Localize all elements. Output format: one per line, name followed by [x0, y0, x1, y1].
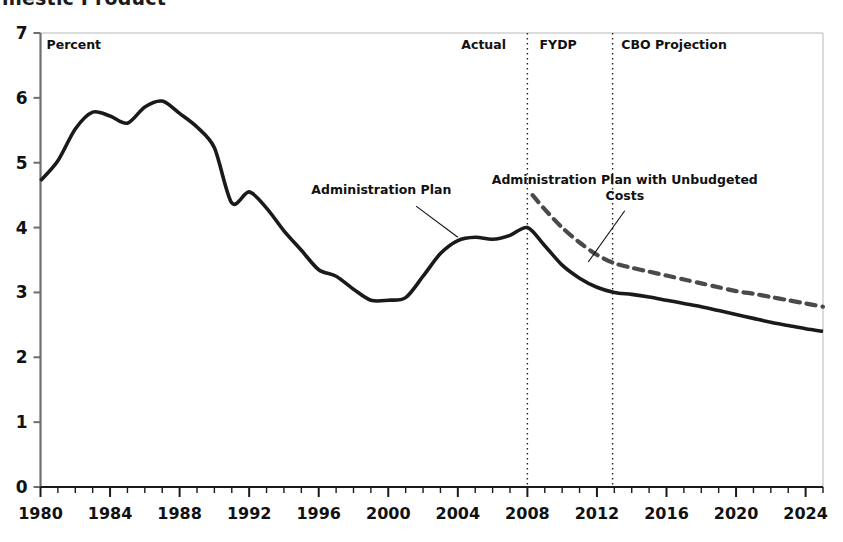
- annotation-leader-administration-plan: [416, 206, 458, 237]
- data-series: [41, 101, 824, 331]
- x-tick-label: 2000: [366, 504, 411, 523]
- series-line-dashed: [533, 195, 823, 307]
- y-tick-label: 4: [16, 218, 28, 238]
- y-tick-label: 6: [16, 88, 28, 108]
- chart-figure: mestic Product 01234567 1980198419881992…: [0, 0, 843, 542]
- y-axis-unit-label: Percent: [47, 37, 102, 52]
- x-tick-label: 1980: [18, 504, 63, 523]
- x-tick-label: 2008: [505, 504, 550, 523]
- region-label: Actual: [461, 37, 506, 52]
- x-tick-label: 2012: [575, 504, 620, 523]
- chart-canvas: 01234567 1980198419881992199620002004200…: [0, 0, 843, 542]
- y-tick-label: 3: [16, 282, 28, 302]
- y-tick-label: 0: [16, 477, 28, 497]
- region-label: CBO Projection: [621, 37, 727, 52]
- annotation-label-administration-plan: Administration Plan: [311, 182, 451, 197]
- x-tick-label: 2020: [714, 504, 759, 523]
- x-tick-label: 1996: [296, 504, 341, 523]
- chart-annotations: Administration PlanAdministration Plan w…: [311, 172, 757, 262]
- x-tick-label: 1988: [157, 504, 202, 523]
- region-divider-lines: [527, 33, 612, 487]
- x-tick-labels: 1980198419881992199620002004200820122016…: [18, 504, 828, 523]
- y-tick-label: 1: [16, 412, 28, 432]
- x-tick-label: 2024: [783, 504, 828, 523]
- y-tick-label: 2: [16, 347, 28, 367]
- x-tick-marks: [41, 487, 824, 497]
- x-tick-label: 2016: [644, 504, 689, 523]
- y-tick-label: 5: [16, 153, 28, 173]
- x-tick-label: 2004: [436, 504, 481, 523]
- region-labels: ActualFYDPCBO Projection: [461, 37, 726, 52]
- annotation-leader-administration-plan-unbudgeted-line2: [588, 211, 625, 262]
- region-label: FYDP: [540, 37, 577, 52]
- annotation-label-administration-plan-unbudgeted-line1: Administration Plan with Unbudgeted: [492, 172, 758, 187]
- x-tick-label: 1992: [227, 504, 272, 523]
- series-line-solid: [41, 101, 824, 331]
- x-tick-label: 1984: [88, 504, 133, 523]
- y-tick-label: 7: [16, 23, 28, 43]
- annotation-label-administration-plan-unbudgeted-line2: Costs: [605, 188, 644, 203]
- y-tick-labels: 01234567: [16, 23, 28, 497]
